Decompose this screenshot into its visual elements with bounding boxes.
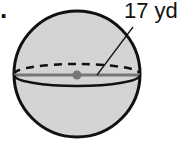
center-dot [73, 71, 82, 80]
sphere-figure: . 17 yd [0, 0, 188, 146]
radius-label: 17 yd [124, 0, 178, 24]
problem-number: . [0, 0, 7, 25]
